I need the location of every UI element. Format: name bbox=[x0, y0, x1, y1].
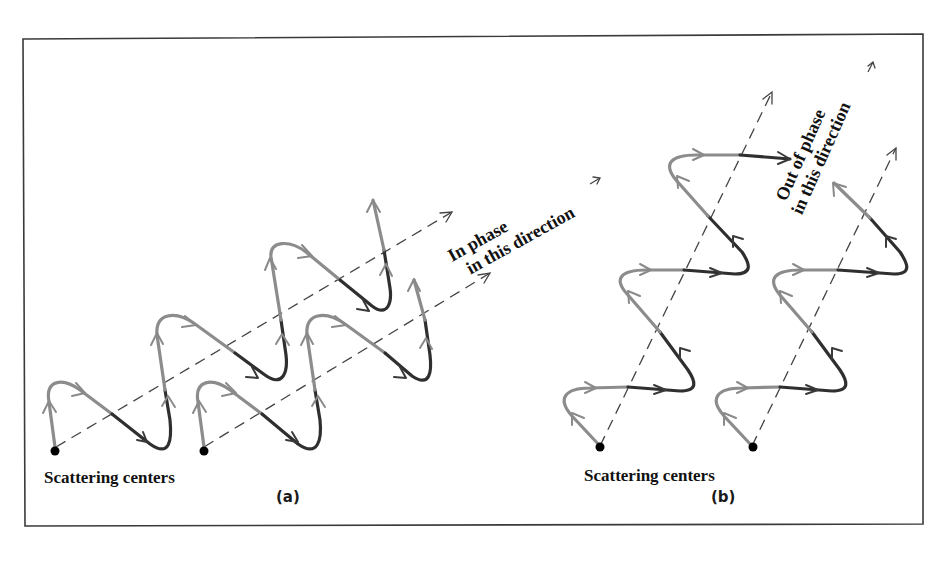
wave-b2 bbox=[716, 183, 907, 446]
wave-a2 bbox=[193, 279, 432, 449]
scattering-centers-label: Scattering centers bbox=[44, 468, 175, 487]
scattering-centers-label: Scattering centers bbox=[584, 466, 715, 485]
in-phase-annotation: In phase in this direction bbox=[444, 185, 578, 283]
diffraction-figure: Scattering centers (a) In phase in this … bbox=[0, 0, 941, 562]
scattering-center bbox=[596, 443, 605, 452]
dashed-direction-line bbox=[56, 212, 452, 447]
wave-a1 bbox=[43, 200, 392, 449]
dashed-direction-arrow-small bbox=[590, 177, 600, 184]
figure-frame bbox=[23, 34, 923, 526]
wave-b1 bbox=[564, 149, 790, 446]
panel-label-a: (a) bbox=[276, 488, 300, 506]
panel-label-b: (b) bbox=[711, 488, 735, 506]
scattering-center bbox=[51, 447, 60, 456]
panel-b: Scattering centers (b) Out of phase in t… bbox=[564, 62, 907, 506]
panel-a: Scattering centers (a) In phase in this … bbox=[43, 177, 600, 506]
scattering-center bbox=[749, 443, 758, 452]
dashed-direction-arrow-small bbox=[868, 62, 875, 72]
scattering-center bbox=[200, 447, 209, 456]
